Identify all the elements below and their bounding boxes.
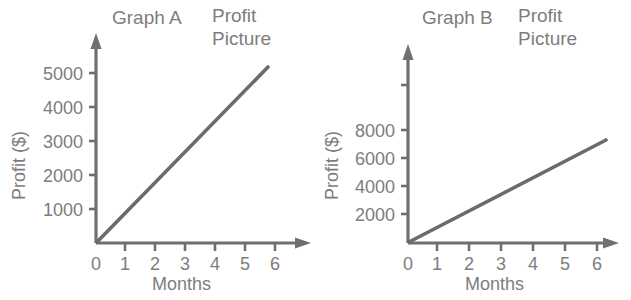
graph-a-panel: Graph A Profit Picture Profit ($) Months… bbox=[0, 0, 315, 300]
graph-b-x-tick-label-3: 3 bbox=[487, 255, 515, 273]
graph-a-annotation-line2: Picture bbox=[212, 29, 271, 48]
graph-b-x-tick-label-1: 1 bbox=[423, 255, 451, 273]
graph-b-x-axis-arrow bbox=[603, 238, 619, 249]
graph-a-x-axis-label: Months bbox=[152, 275, 211, 293]
graph-a-y-tick-label-5000: 5000 bbox=[28, 65, 83, 83]
graph-b-annotation-line1: Profit bbox=[518, 6, 562, 25]
graph-a-y-axis-label: Profit ($) bbox=[10, 131, 28, 200]
graph-b-x-tick-label-6: 6 bbox=[583, 255, 611, 273]
graph-a-y-tick-label-3000: 3000 bbox=[28, 133, 83, 151]
graph-a-annotation-line1: Profit bbox=[212, 6, 256, 25]
graph-b-x-axis-label: Months bbox=[465, 275, 524, 293]
profit-picture-figure: Graph A Profit Picture Profit ($) Months… bbox=[0, 0, 631, 300]
graph-b-panel: Graph B Profit Picture Profit ($) Months… bbox=[315, 0, 631, 300]
graph-a-x-tick-label-5: 5 bbox=[231, 255, 259, 273]
graph-a-title: Graph A bbox=[112, 8, 182, 27]
graph-a-y-axis-arrow bbox=[91, 33, 102, 49]
graph-a-x-tick-label-3: 3 bbox=[171, 255, 199, 273]
graph-a-y-tick-label-4000: 4000 bbox=[28, 99, 83, 117]
graph-b-data-line bbox=[409, 140, 606, 242]
graph-a-x-tick-label-6: 6 bbox=[261, 255, 289, 273]
graph-b-x-tick-label-5: 5 bbox=[551, 255, 579, 273]
graph-a-y-tick-label-1000: 1000 bbox=[28, 201, 83, 219]
graph-a-x-tick-label-1: 1 bbox=[111, 255, 139, 273]
graph-b-y-tick-label-4000: 4000 bbox=[340, 178, 395, 196]
graph-a-y-tick-label-2000: 2000 bbox=[28, 167, 83, 185]
graph-a-data-line bbox=[97, 67, 268, 242]
graph-b-x-tick-label-4: 4 bbox=[519, 255, 547, 273]
graph-a-x-tick-label-4: 4 bbox=[201, 255, 229, 273]
graph-b-annotation-line2: Picture bbox=[518, 29, 577, 48]
graph-b-x-tick-label-2: 2 bbox=[455, 255, 483, 273]
graph-b-y-axis-label: Profit ($) bbox=[323, 131, 341, 200]
graph-b-y-tick-label-2000: 2000 bbox=[340, 206, 395, 224]
graph-a-x-tick-label-2: 2 bbox=[141, 255, 169, 273]
graph-b-y-axis-arrow bbox=[403, 44, 414, 60]
graph-a-x-axis-arrow bbox=[295, 238, 311, 249]
graph-b-y-tick-label-6000: 6000 bbox=[340, 150, 395, 168]
graph-b-x-tick-label-0: 0 bbox=[394, 255, 422, 273]
graph-a-x-tick-label-0: 0 bbox=[82, 255, 110, 273]
graph-b-y-tick-label-8000: 8000 bbox=[340, 122, 395, 140]
graph-b-title: Graph B bbox=[422, 8, 493, 27]
